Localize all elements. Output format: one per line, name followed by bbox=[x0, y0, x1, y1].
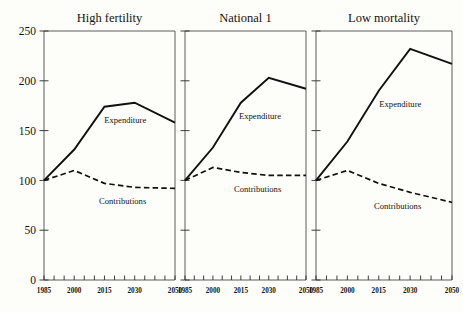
panel-1: High fertility05010015020025019852000201… bbox=[19, 11, 183, 295]
series-label-contributions-2: Contributions bbox=[234, 184, 282, 194]
x-tick-label-3-0: 1985 bbox=[309, 287, 324, 295]
panel-title-2: National 1 bbox=[219, 11, 271, 25]
y-tick-label-1: 50 bbox=[25, 224, 37, 236]
panel-frame-1 bbox=[44, 31, 175, 280]
y-tick-label-2: 100 bbox=[19, 175, 37, 187]
panel-title-1: High fertility bbox=[77, 11, 143, 25]
series-line-contributions-1 bbox=[44, 170, 175, 188]
panel-2: National 119852000201520302050Expenditur… bbox=[178, 11, 314, 295]
series-label-expenditure-2: Expenditure bbox=[239, 111, 281, 121]
x-tick-label-2-1: 2000 bbox=[206, 287, 221, 295]
x-tick-label-1-1: 2000 bbox=[67, 287, 82, 295]
y-tick-label-0: 0 bbox=[30, 274, 36, 286]
multi-panel-line-chart: High fertility05010015020025019852000201… bbox=[0, 0, 463, 312]
panel-title-3: Low mortality bbox=[348, 11, 421, 25]
x-tick-label-3-4: 2050 bbox=[445, 287, 460, 295]
panel-3: Low mortality19852000201520302050Expendi… bbox=[309, 11, 460, 295]
panel-frame-2 bbox=[185, 31, 306, 280]
x-tick-label-1-3: 2030 bbox=[128, 287, 143, 295]
x-tick-label-3-1: 2000 bbox=[340, 287, 355, 295]
x-tick-label-3-3: 2030 bbox=[403, 287, 418, 295]
x-tick-label-2-3: 2030 bbox=[262, 287, 277, 295]
x-tick-label-1-2: 2015 bbox=[97, 287, 112, 295]
series-line-contributions-2 bbox=[185, 167, 306, 180]
series-label-expenditure-3: Expenditure bbox=[379, 99, 421, 109]
series-label-contributions-1: Contributions bbox=[99, 196, 147, 206]
y-tick-label-3: 150 bbox=[19, 125, 37, 137]
x-tick-label-3-2: 2015 bbox=[372, 287, 387, 295]
series-label-contributions-3: Contributions bbox=[374, 201, 422, 211]
x-tick-label-2-2: 2015 bbox=[234, 287, 249, 295]
series-line-expenditure-2 bbox=[185, 78, 306, 181]
y-tick-label-5: 250 bbox=[19, 25, 37, 37]
y-tick-label-4: 200 bbox=[19, 75, 37, 87]
series-line-contributions-3 bbox=[316, 170, 452, 202]
x-tick-label-2-0: 1985 bbox=[178, 287, 193, 295]
chart-figure: High fertility05010015020025019852000201… bbox=[0, 0, 463, 312]
x-tick-label-1-0: 1985 bbox=[37, 287, 52, 295]
series-label-expenditure-1: Expenditure bbox=[104, 115, 146, 125]
series-line-expenditure-3 bbox=[316, 49, 452, 180]
